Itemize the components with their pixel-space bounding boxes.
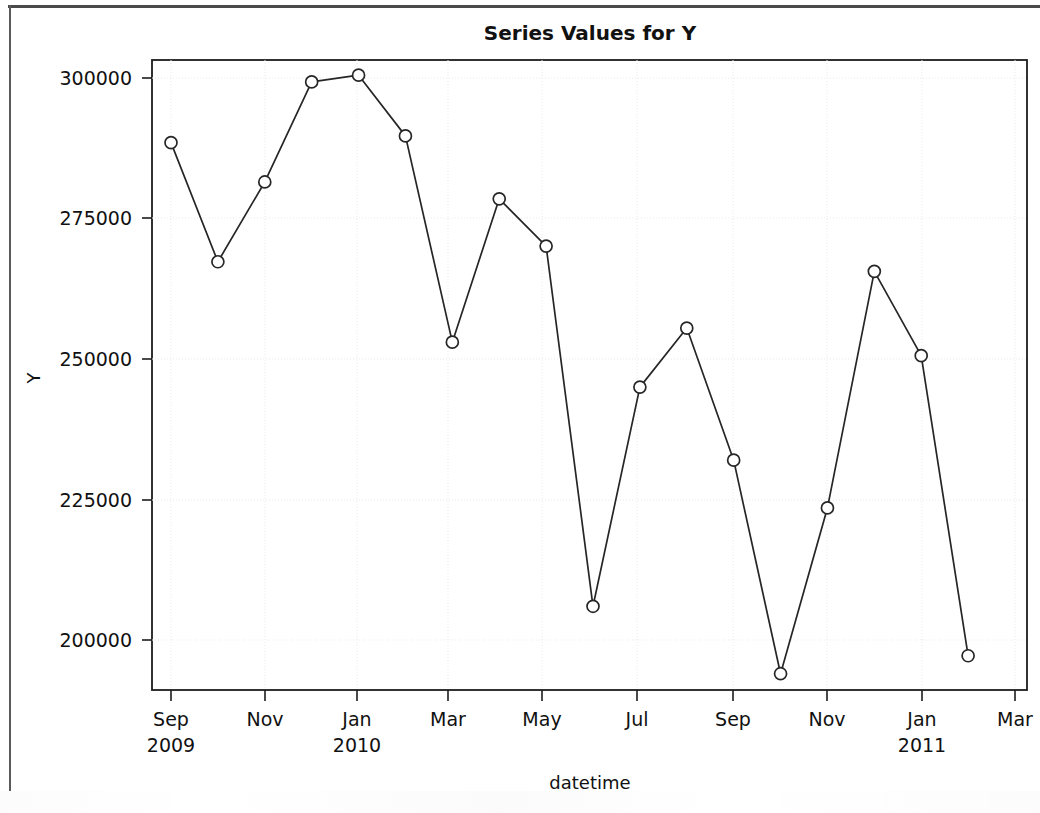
x-tick-label-jan-2011: Jan xyxy=(906,708,936,730)
y-axis-ticks xyxy=(142,78,152,640)
data-point xyxy=(821,502,833,514)
x-tick-label-sep-2010: Sep xyxy=(715,708,751,730)
data-point xyxy=(493,193,505,205)
chart-title: Series Values for Y xyxy=(484,21,697,45)
y-tick-label-225000: 225000 xyxy=(59,489,132,511)
x-tick-label-mar-2010: Mar xyxy=(430,708,466,730)
data-point xyxy=(728,454,740,466)
x-tick-year-2011: 2011 xyxy=(898,734,946,756)
data-point xyxy=(587,600,599,612)
data-point xyxy=(212,256,224,268)
data-point xyxy=(306,76,318,88)
x-tick-label-jan-2010: Jan xyxy=(341,708,371,730)
x-tick-label-sep-2009: Sep xyxy=(153,708,189,730)
data-point xyxy=(681,322,693,334)
data-point xyxy=(446,336,458,348)
x-tick-year-2009: 2009 xyxy=(147,734,195,756)
data-point xyxy=(165,137,177,149)
data-point xyxy=(540,240,552,252)
y-tick-label-300000: 300000 xyxy=(59,67,132,89)
plot-frame xyxy=(152,60,1027,690)
x-tick-label-jul-2010: Jul xyxy=(625,708,649,730)
line-chart: Series Values for Y 300000 275000 250000… xyxy=(0,0,1040,813)
data-point xyxy=(634,381,646,393)
x-tick-label-nov-2010: Nov xyxy=(808,708,845,730)
data-point xyxy=(868,265,880,277)
x-tick-label-nov-2009: Nov xyxy=(246,708,283,730)
data-point xyxy=(399,130,411,142)
data-point xyxy=(353,69,365,81)
x-axis-title: datetime xyxy=(549,772,630,793)
data-point xyxy=(259,176,271,188)
data-point xyxy=(915,350,927,362)
y-tick-label-275000: 275000 xyxy=(59,207,132,229)
data-point xyxy=(962,650,974,662)
x-tick-label-may-2010: May xyxy=(522,708,561,730)
x-tick-label-mar-2011: Mar xyxy=(997,708,1033,730)
x-tick-year-2010: 2010 xyxy=(333,734,381,756)
data-point xyxy=(775,668,787,680)
chart-page: Series Values for Y 300000 275000 250000… xyxy=(0,0,1040,813)
y-axis-title: Y xyxy=(23,372,44,385)
chart-svg: Series Values for Y 300000 275000 250000… xyxy=(0,0,1040,813)
y-tick-label-250000: 250000 xyxy=(59,348,132,370)
x-axis-ticks xyxy=(171,690,1015,701)
y-tick-label-200000: 200000 xyxy=(59,629,132,651)
